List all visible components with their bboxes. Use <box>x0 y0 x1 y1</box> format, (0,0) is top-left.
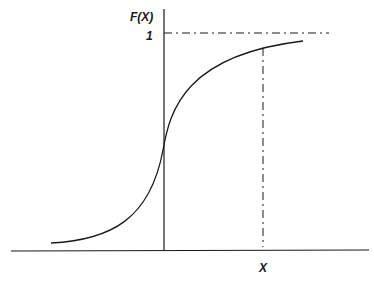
x-axis-label: X <box>258 261 268 275</box>
y-tick-one: 1 <box>146 29 153 43</box>
cdf-diagram: F(X) 1 X <box>0 0 374 283</box>
x-axis <box>11 250 369 251</box>
y-axis-label: F(X) <box>130 10 153 24</box>
cdf-curve <box>51 41 303 243</box>
